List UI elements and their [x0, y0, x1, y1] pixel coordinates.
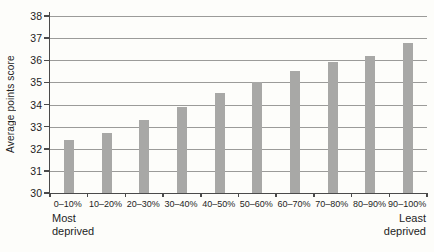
bar — [215, 93, 225, 193]
y-tick-mark — [44, 170, 49, 172]
x-tick-mark — [313, 193, 315, 197]
y-tick-label: 34 — [4, 99, 42, 111]
x-tick-label: 0–10% — [54, 199, 82, 209]
x-tick-label: 30–40% — [164, 199, 197, 209]
x-axis-annotation-most-deprived: Most deprived — [52, 212, 94, 237]
y-tick-label: 30 — [4, 187, 42, 199]
bar — [365, 56, 375, 193]
bar-chart-figure: Average points score Most deprived Least… — [0, 0, 434, 252]
x-tick-mark — [125, 193, 127, 197]
y-tick-mark — [44, 104, 49, 106]
x-tick-mark — [200, 193, 202, 197]
y-tick-mark — [44, 82, 49, 84]
x-tick-label: 40–50% — [202, 199, 235, 209]
y-tick-label: 38 — [4, 10, 42, 22]
x-tick-label: 50–60% — [240, 199, 273, 209]
y-tick-mark — [44, 15, 49, 17]
bar — [252, 82, 262, 193]
x-tick-mark — [275, 193, 277, 197]
y-tick-label: 37 — [4, 32, 42, 44]
bar — [139, 120, 149, 193]
y-tick-mark — [44, 37, 49, 39]
x-tick-label: 70–80% — [315, 199, 348, 209]
y-tick-label: 31 — [4, 165, 42, 177]
x-tick-label: 90–100% — [388, 199, 426, 209]
bar — [290, 71, 300, 193]
bar — [403, 43, 413, 193]
bar — [177, 107, 187, 193]
y-tick-mark — [44, 60, 49, 62]
y-tick-label: 32 — [4, 143, 42, 155]
x-tick-mark — [389, 193, 391, 197]
y-tick-label: 35 — [4, 76, 42, 88]
y-tick-label: 36 — [4, 54, 42, 66]
y-tick-mark — [44, 126, 49, 128]
x-tick-label: 10–20% — [89, 199, 122, 209]
y-tick-mark — [44, 148, 49, 150]
x-tick-label: 80–90% — [353, 199, 386, 209]
gridline — [50, 38, 427, 39]
bar — [64, 140, 74, 193]
bar — [102, 133, 112, 193]
plot-area — [49, 16, 427, 194]
y-tick-mark — [44, 192, 49, 194]
x-tick-label: 20–30% — [127, 199, 160, 209]
x-tick-mark — [49, 193, 51, 197]
x-tick-mark — [351, 193, 353, 197]
x-tick-label: 60–70% — [278, 199, 311, 209]
gridline — [50, 16, 427, 17]
x-tick-mark — [87, 193, 89, 197]
x-tick-mark — [162, 193, 164, 197]
x-tick-mark — [238, 193, 240, 197]
bar — [328, 62, 338, 193]
x-tick-mark — [426, 193, 428, 197]
x-axis-annotation-least-deprived: Least deprived — [384, 212, 426, 237]
y-tick-label: 33 — [4, 121, 42, 133]
